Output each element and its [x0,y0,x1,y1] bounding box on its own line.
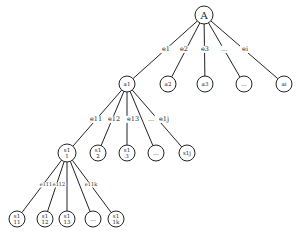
node-a3: a3 [197,76,213,92]
node-label: A [199,10,208,21]
node-label: s1 [42,213,48,219]
node-label: s1 [124,147,130,153]
node-s13: s13 [119,145,135,161]
node-s11: s11 [58,144,76,162]
node-A: A [195,6,213,24]
node-s113: s113 [59,211,75,227]
node-a2: a2 [160,76,176,92]
edge-label: ei [242,45,248,53]
node-label: s1 [14,213,20,219]
node-s1dots: ... [85,211,101,227]
node-label: ... [153,149,159,156]
node-label: 1k [113,219,120,225]
edge-label: ... [221,45,227,53]
edge-label: e12 [108,115,120,123]
edge-label: ... [148,115,154,123]
node-label: 3 [125,153,129,159]
edge-label: e1j [159,115,169,123]
node-label: a1 [124,81,131,87]
edge-label: e1 [162,45,170,53]
node-label: s1 [64,213,70,219]
tree-diagram: e1e2e3...eie11e12e13...e1je111e112e11k A… [0,0,299,237]
node-label: 2 [96,153,100,159]
node-label: ... [241,80,247,87]
node-label: a3 [202,81,209,87]
node-label: ai [281,81,286,87]
node-label: s1 [64,147,70,153]
edge-label: e3 [201,45,209,53]
node-sdots: ... [148,145,164,161]
node-label: s1j [183,150,191,157]
edge-labels-layer: e1e2e3...eie11e12e13...e1je111e112e11k [39,45,250,188]
node-label: ... [90,215,96,222]
node-label: s1 [95,147,101,153]
node-label: s1 [113,213,119,219]
node-a1: a1 [119,76,135,92]
node-label: 12 [42,219,49,225]
edge-label: e2 [180,45,188,53]
node-adots: ... [236,76,252,92]
node-s11k: s11k [108,211,124,227]
node-s111: s111 [9,211,25,227]
edge-label: e111 [40,181,53,187]
edge-label: e11 [90,115,102,123]
node-label: a2 [165,81,172,87]
node-label: 13 [64,219,71,225]
node-label: 1 [65,153,69,159]
edge-label: e13 [127,115,139,123]
node-s1j: s1j [179,145,195,161]
node-s12: s12 [90,145,106,161]
edge-label: e11k [85,181,98,187]
node-s112: s112 [37,211,53,227]
node-ai: ai [276,76,292,92]
edge-label: e112 [53,181,66,187]
node-label: 11 [14,219,21,225]
